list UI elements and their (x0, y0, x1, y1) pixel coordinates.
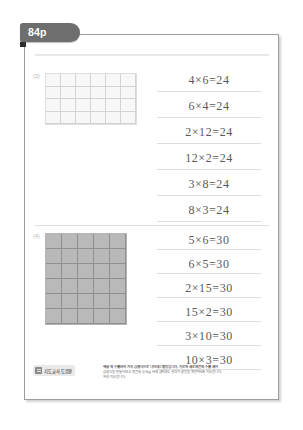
grid-cell (94, 309, 110, 324)
answer-row[interactable]: 2×12=24 (153, 123, 265, 149)
top-divider (35, 54, 269, 56)
grid-cell (78, 234, 94, 249)
grid-cell (62, 309, 78, 324)
grid-cell (62, 249, 78, 264)
grid-cell (91, 74, 106, 87)
grid-cell (121, 112, 136, 125)
answer-text: 8×3=24 (153, 203, 265, 218)
grid-cell (62, 264, 78, 279)
answer-text: 3×8=24 (153, 177, 265, 192)
answer-list-2: 5×6=30 6×5=30 2×15=30 15×2=30 3×10=30 (153, 231, 265, 375)
answer-row[interactable]: 4×6=24 (153, 71, 265, 97)
grid-cell (94, 279, 110, 294)
grid-cell (61, 74, 76, 87)
answer-list-1: 4×6=24 6×4=24 2×12=24 12×2=24 3×8=24 (153, 71, 265, 227)
answer-row[interactable]: 8×3=24 (153, 201, 265, 227)
answer-text: 15×2=30 (153, 305, 265, 320)
grid-cell (121, 87, 136, 100)
grid-cell (110, 264, 126, 279)
answer-text: 6×4=24 (153, 99, 265, 114)
grid-cell (46, 112, 61, 125)
grid-cell (46, 87, 61, 100)
grid-cell (91, 87, 106, 100)
answer-text: 5×6=30 (153, 233, 265, 248)
answer-text: 2×12=24 (153, 125, 265, 140)
section-divider (35, 225, 269, 226)
answer-underline (157, 143, 261, 144)
grid-cell (94, 294, 110, 309)
grid-cell (61, 112, 76, 125)
multiplication-grid-2 (45, 233, 127, 325)
answer-text: 12×2=24 (153, 151, 265, 166)
answer-underline (157, 297, 261, 298)
page-tab-label: 84p (20, 23, 80, 42)
grid-cell (106, 99, 121, 112)
grid-cell (46, 309, 62, 324)
worksheet-sheet: (3) (24, 34, 279, 400)
answer-underline (157, 249, 261, 250)
grid-cell (121, 74, 136, 87)
grid-cell (61, 99, 76, 112)
grid-cell (46, 234, 62, 249)
answer-underline (157, 221, 261, 222)
grid-cell (121, 99, 136, 112)
multiplication-grid-1 (45, 73, 137, 125)
answer-row[interactable]: 2×15=30 (153, 279, 265, 303)
grid-cell (94, 249, 110, 264)
answer-row[interactable]: 3×8=24 (153, 175, 265, 201)
answer-underline (157, 117, 261, 118)
teacher-note-badge: 지도교사 도움말 (33, 365, 75, 376)
grid-cell (94, 234, 110, 249)
grid-cell (106, 87, 121, 100)
grid-cell (110, 309, 126, 324)
grid-cell (106, 74, 121, 87)
problem-block-4: (4) (25, 231, 280, 361)
tab-shadow-notch (20, 42, 26, 47)
grid-cell (78, 249, 94, 264)
grid-cell (78, 264, 94, 279)
problem-block-3: (3) (25, 71, 280, 226)
answer-row[interactable]: 12×2=24 (153, 149, 265, 175)
answer-text: 6×5=30 (153, 257, 265, 272)
answer-underline (157, 345, 261, 346)
teacher-note-badge-label: 지도교사 도움말 (44, 368, 72, 374)
grid-cell (46, 279, 62, 294)
grid-cell (76, 112, 91, 125)
page-tab[interactable]: 84p (20, 23, 80, 42)
answer-text: 3×10=30 (153, 329, 265, 344)
grid-cell (78, 309, 94, 324)
grid-cell (76, 74, 91, 87)
grid-cell (94, 264, 110, 279)
grid-cell (110, 249, 126, 264)
answer-underline (157, 169, 261, 170)
grid-cell (106, 112, 121, 125)
answer-row[interactable]: 5×6=30 (153, 231, 265, 255)
answer-row[interactable]: 6×5=30 (153, 255, 265, 279)
grid-cell (62, 294, 78, 309)
grid-cell (46, 249, 62, 264)
answer-row[interactable]: 15×2=30 (153, 303, 265, 327)
answer-underline (157, 273, 261, 274)
grid-cell (76, 99, 91, 112)
problem-number: (3) (33, 73, 39, 79)
grid-cell (110, 294, 126, 309)
problem-number: (4) (33, 233, 39, 239)
grid-cell (76, 87, 91, 100)
grid-cell (46, 99, 61, 112)
grid-cell (110, 279, 126, 294)
answer-underline (157, 195, 261, 196)
grid-cell (62, 234, 78, 249)
answer-underline (157, 321, 261, 322)
grid-cell (110, 234, 126, 249)
teacher-note-line: 하여 지도합니다. (103, 375, 271, 380)
grid-cell (91, 112, 106, 125)
book-icon (35, 367, 42, 374)
page-container: 84p (3) (0, 0, 303, 430)
answer-row[interactable]: 6×4=24 (153, 97, 265, 123)
answer-text: 2×15=30 (153, 281, 265, 296)
grid-cell (46, 264, 62, 279)
grid-cell (78, 279, 94, 294)
grid-cell (46, 294, 62, 309)
answer-row[interactable]: 3×10=30 (153, 327, 265, 351)
grid-cell (61, 87, 76, 100)
